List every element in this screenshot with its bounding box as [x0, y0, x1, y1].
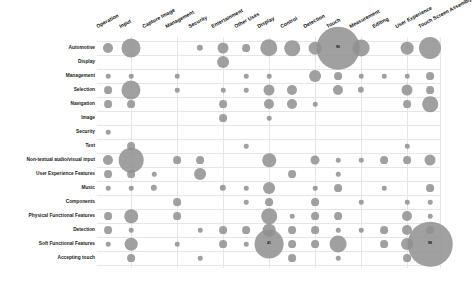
data-bubble[interactable] [196, 156, 204, 164]
data-bubble[interactable] [152, 172, 157, 177]
data-bubble[interactable] [403, 100, 411, 108]
data-bubble[interactable] [359, 228, 364, 233]
data-bubble[interactable] [263, 182, 275, 194]
data-bubble[interactable] [175, 88, 180, 93]
data-bubble[interactable] [104, 170, 112, 178]
data-bubble[interactable] [264, 99, 274, 109]
data-bubble[interactable] [151, 185, 157, 191]
data-bubble[interactable] [263, 84, 274, 95]
data-bubble[interactable] [198, 228, 203, 233]
data-bubble[interactable] [311, 198, 319, 206]
data-bubble[interactable] [311, 226, 319, 234]
data-bubble[interactable] [336, 172, 341, 177]
data-bubble[interactable] [380, 226, 388, 234]
data-bubble[interactable] [426, 72, 434, 80]
data-bubble[interactable] [382, 186, 387, 191]
data-bubble[interactable] [334, 184, 342, 192]
data-bubble[interactable] [422, 96, 438, 112]
data-bubble[interactable] [265, 198, 273, 206]
data-bubble[interactable] [428, 200, 433, 205]
data-bubble[interactable] [244, 88, 249, 93]
data-bubble[interactable] [403, 254, 411, 262]
data-bubble[interactable] [426, 86, 434, 94]
data-bubble[interactable] [334, 212, 342, 220]
data-bubble[interactable] [129, 74, 134, 79]
data-bubble[interactable] [103, 155, 113, 165]
data-bubble[interactable] [313, 186, 318, 191]
data-bubble[interactable] [380, 156, 388, 164]
data-bubble[interactable] [405, 74, 410, 79]
data-bubble[interactable] [244, 144, 249, 149]
data-bubble[interactable] [353, 40, 370, 57]
data-bubble[interactable] [175, 242, 180, 247]
data-bubble[interactable] [173, 212, 181, 220]
data-bubble[interactable] [287, 85, 297, 95]
data-bubble[interactable] [104, 100, 112, 108]
data-bubble[interactable] [104, 212, 112, 220]
data-bubble[interactable] [217, 42, 228, 53]
data-bubble[interactable] [287, 99, 297, 109]
data-bubble[interactable] [311, 212, 319, 220]
data-bubble[interactable] [311, 156, 320, 165]
data-bubble[interactable] [104, 226, 112, 234]
data-bubble[interactable] [333, 85, 343, 95]
data-bubble[interactable] [288, 254, 296, 262]
data-bubble[interactable] [173, 198, 181, 206]
data-bubble[interactable] [244, 242, 249, 247]
data-bubble[interactable] [221, 88, 226, 93]
data-bubble[interactable] [284, 40, 300, 56]
data-bubble[interactable] [336, 158, 341, 163]
data-bubble[interactable] [419, 37, 441, 59]
data-bubble[interactable] [426, 184, 434, 192]
data-bubble[interactable] [198, 256, 203, 261]
data-bubble[interactable] [288, 226, 296, 234]
data-bubble[interactable] [194, 168, 206, 180]
data-bubble[interactable] [219, 114, 227, 122]
data-bubble[interactable] [288, 240, 296, 248]
data-bubble[interactable] [358, 87, 364, 93]
data-bubble[interactable] [197, 45, 203, 51]
data-bubble[interactable] [262, 153, 276, 167]
data-bubble[interactable] [359, 200, 364, 205]
data-bubble[interactable] [217, 56, 229, 68]
data-bubble[interactable] [219, 226, 227, 234]
data-bubble[interactable] [106, 130, 111, 135]
data-bubble[interactable] [290, 214, 295, 219]
data-bubble[interactable] [124, 209, 138, 223]
data-bubble[interactable] [401, 42, 414, 55]
data-bubble[interactable] [311, 240, 319, 248]
data-bubble[interactable] [219, 240, 227, 248]
data-bubble[interactable] [261, 208, 277, 224]
data-bubble[interactable] [173, 156, 181, 164]
data-bubble[interactable] [244, 186, 249, 191]
data-bubble[interactable] [242, 226, 250, 234]
data-bubble[interactable] [242, 44, 250, 52]
data-bubble[interactable] [405, 200, 410, 205]
data-bubble[interactable] [219, 100, 227, 108]
data-bubble[interactable] [106, 186, 111, 191]
data-bubble[interactable] [106, 74, 111, 79]
data-bubble[interactable] [103, 43, 113, 53]
data-bubble[interactable] [121, 38, 140, 57]
data-bubble[interactable] [336, 256, 341, 261]
data-bubble[interactable] [119, 148, 144, 173]
data-bubble[interactable] [401, 84, 412, 95]
data-bubble[interactable] [309, 70, 321, 82]
data-bubble[interactable] [288, 170, 296, 178]
data-bubble[interactable] [244, 74, 249, 79]
data-bubble[interactable] [104, 86, 112, 94]
data-bubble[interactable] [127, 100, 135, 108]
data-bubble[interactable] [334, 72, 342, 80]
data-bubble[interactable] [267, 74, 272, 79]
data-bubble[interactable] [402, 211, 412, 221]
data-bubble[interactable] [267, 116, 272, 121]
data-bubble[interactable] [125, 238, 138, 251]
data-bubble[interactable] [313, 102, 318, 107]
data-bubble[interactable] [359, 158, 364, 163]
data-bubble[interactable] [129, 186, 134, 191]
data-bubble[interactable] [121, 80, 140, 99]
data-bubble[interactable] [244, 200, 249, 205]
data-bubble[interactable] [129, 228, 134, 233]
data-bubble[interactable] [106, 242, 111, 247]
data-bubble[interactable] [127, 254, 135, 262]
